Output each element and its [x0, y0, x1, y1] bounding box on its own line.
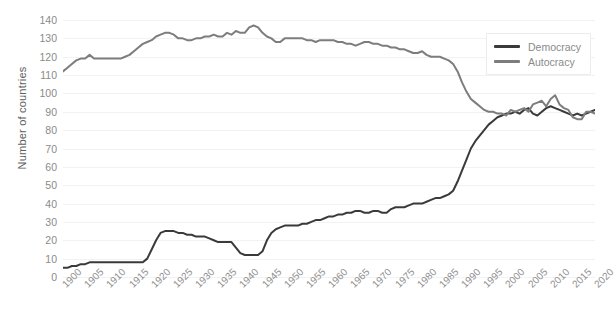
- legend-label-democracy: Democracy: [528, 41, 581, 53]
- y-tick-label: 60: [45, 161, 57, 173]
- y-tick-label: 100: [39, 87, 57, 99]
- line-series-democracy: [63, 106, 595, 268]
- y-tick-label: 80: [45, 124, 57, 136]
- y-tick-label: 10: [45, 253, 57, 265]
- legend-swatch-democracy: [494, 45, 520, 48]
- y-tick-label: 130: [39, 32, 57, 44]
- y-tick-label: 140: [39, 14, 57, 26]
- y-tick-label: 90: [45, 106, 57, 118]
- legend-label-autocracy: Autocracy: [528, 56, 575, 68]
- y-tick-label: 110: [40, 69, 57, 81]
- y-tick-label: 40: [45, 198, 57, 210]
- y-tick-label: 50: [45, 179, 57, 191]
- chart-legend: Democracy Autocracy: [486, 33, 591, 75]
- y-tick-label: 20: [45, 234, 57, 246]
- legend-item-democracy[interactable]: Democracy: [494, 39, 581, 54]
- y-tick-label: 70: [45, 143, 57, 155]
- y-axis-title: Number of countries: [16, 38, 28, 198]
- y-tick-label: 120: [39, 51, 57, 63]
- legend-item-autocracy[interactable]: Autocracy: [494, 54, 581, 69]
- y-tick-label: 0: [51, 271, 57, 283]
- legend-swatch-autocracy: [494, 60, 520, 63]
- x-tick-label: 2020: [592, 266, 616, 290]
- y-tick-label: 30: [45, 216, 57, 228]
